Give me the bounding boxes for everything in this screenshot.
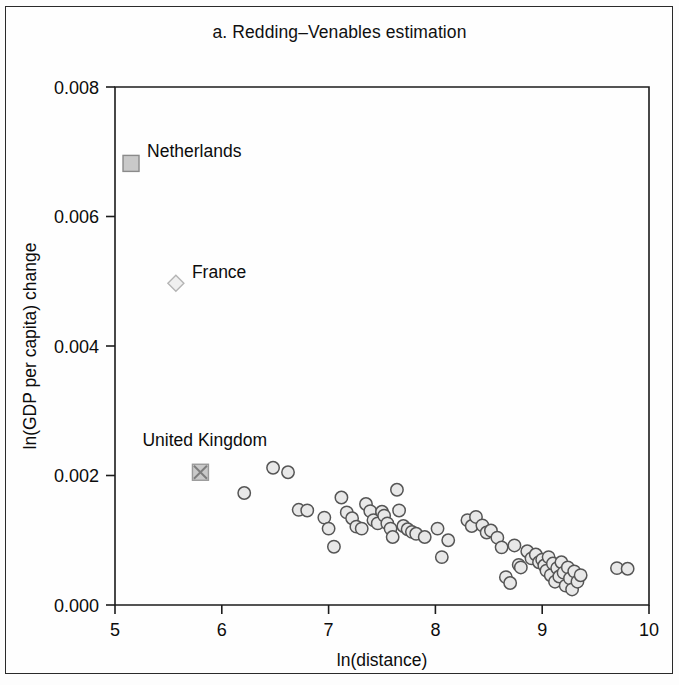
y-axis-tick-label: 0.008 (54, 78, 99, 98)
data-points-layer (238, 462, 634, 596)
y-axis-tick-label: 0.002 (54, 466, 99, 486)
scatter-point (419, 531, 431, 543)
scatter-point (436, 551, 448, 563)
scatter-point (495, 541, 507, 553)
point-label: Netherlands (147, 141, 242, 161)
scatter-point (431, 522, 443, 534)
annotations-layer: NetherlandsFranceUnited Kingdom (123, 141, 267, 480)
scatter-point (238, 487, 250, 499)
x-axis-tick-label: 6 (217, 620, 227, 640)
scatter-point (391, 484, 403, 496)
figure-container: a. Redding–Venables estimation 0.0000.00… (0, 0, 679, 685)
scatter-point (322, 522, 334, 534)
scatter-point (393, 504, 405, 516)
scatter-point (386, 531, 398, 543)
scatter-point (267, 462, 279, 474)
x-axis-tick-label: 5 (110, 620, 120, 640)
highlighted-point: United Kingdom (142, 430, 267, 480)
scatter-point (515, 561, 527, 573)
scatter-point (356, 522, 368, 534)
x-axis-tick-label: 9 (537, 620, 547, 640)
y-axis-tick-label: 0.004 (54, 337, 99, 357)
point-label: United Kingdom (142, 430, 267, 450)
scatter-point (335, 491, 347, 503)
y-axis-tick-label: 0.000 (54, 596, 99, 616)
scatter-point (621, 563, 633, 575)
scatter-point (504, 577, 516, 589)
scatter-point (328, 541, 340, 553)
point-label: France (192, 262, 246, 282)
y-axis-tick-label: 0.006 (54, 207, 99, 227)
scatter-point (301, 504, 313, 516)
highlighted-point: Netherlands (123, 141, 242, 171)
x-axis-title: ln(distance) (337, 650, 427, 670)
scatter-point (508, 539, 520, 551)
highlighted-point: France (168, 262, 246, 291)
x-axis-tick-label: 10 (639, 620, 659, 640)
y-axis-title: ln(GDP per capita) change (20, 243, 40, 450)
x-axis-tick-label: 8 (430, 620, 440, 640)
x-axis-tick-label: 7 (324, 620, 334, 640)
scatter-point (442, 534, 454, 546)
scatter-point (282, 466, 294, 478)
scatter-plot: 0.0000.0020.0040.0060.0085678910ln(dista… (0, 0, 679, 685)
scatter-point (574, 569, 586, 581)
